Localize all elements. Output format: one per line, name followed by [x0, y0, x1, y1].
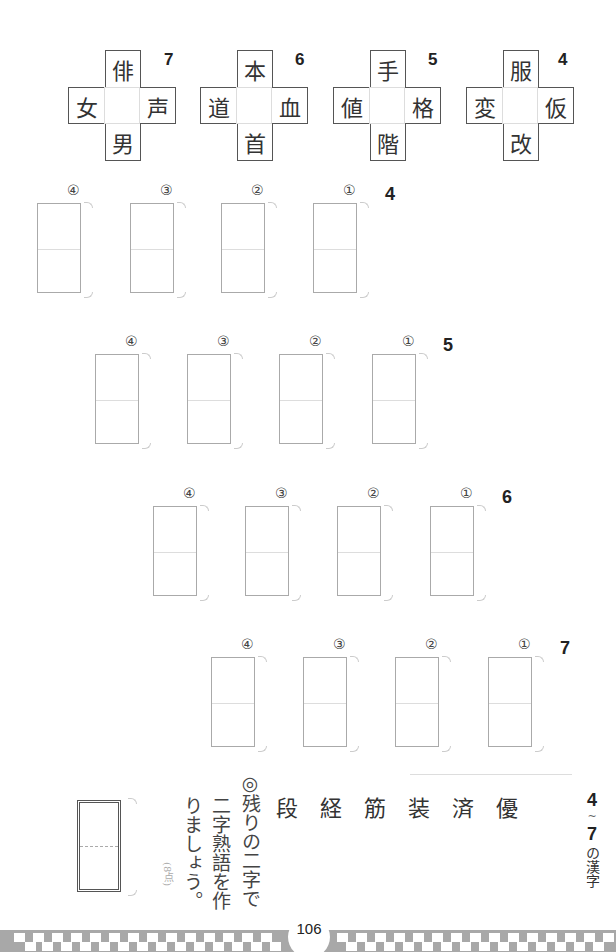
kanji-item: 済 — [451, 790, 475, 822]
answer-box[interactable] — [187, 354, 231, 444]
answer-label: ② — [309, 333, 322, 349]
section-title-text: の漢字 — [582, 846, 602, 888]
answer-box[interactable] — [488, 657, 532, 747]
answer-box[interactable] — [313, 203, 357, 293]
answer-box[interactable] — [153, 506, 197, 596]
puzzle-cell-right: 仮 — [538, 87, 574, 124]
cross-puzzle-5: 手 値 格 階 5 — [333, 46, 443, 168]
puzzle-cell-center-blank[interactable] — [502, 87, 538, 124]
answer-row-4: ④ ③ ② ① 4 — [0, 182, 616, 302]
puzzle-cell-left: 値 — [333, 87, 369, 124]
kanji-item: 筋 — [363, 790, 387, 822]
final-answer-box[interactable] — [77, 800, 121, 892]
answer-box[interactable] — [395, 657, 439, 747]
cross-puzzle-7: 俳 女 声 男 7 — [68, 46, 178, 168]
answer-row-7: ④ ③ ② ① 7 — [0, 636, 616, 756]
instruction-line-2: 二字熟語を作 — [208, 796, 232, 910]
answer-slot-1: ① — [372, 333, 492, 453]
answer-box[interactable] — [130, 203, 174, 293]
puzzle-cell-right: 格 — [405, 87, 441, 124]
answer-box[interactable] — [37, 203, 81, 293]
answer-box[interactable] — [279, 354, 323, 444]
answer-row-5: ④ ③ ② ① 5 — [0, 333, 616, 453]
puzzle-cell-top: 手 — [370, 50, 406, 87]
remaining-kanji-list: 優 済 装 筋 経 段 — [275, 790, 519, 822]
answer-label: ② — [425, 636, 438, 652]
answer-label: ④ — [125, 333, 138, 349]
answer-box[interactable] — [303, 657, 347, 747]
puzzle-cell-center-blank[interactable] — [104, 87, 140, 124]
paren-top — [128, 798, 137, 804]
row-number: 4 — [385, 184, 395, 205]
cross-puzzle-4: 服 変 仮 改 4 — [466, 46, 576, 168]
answer-slot-1: ① — [488, 636, 608, 756]
answer-label: ① — [518, 636, 531, 652]
puzzle-cell-left: 変 — [466, 87, 502, 124]
kanji-item: 優 — [495, 790, 519, 822]
instruction-line-1: ◎残りの二字で — [238, 772, 262, 908]
puzzle-cell-bottom: 男 — [105, 124, 141, 161]
cross-puzzle-6: 本 道 血 首 6 — [200, 46, 310, 168]
puzzle-number: 7 — [164, 50, 173, 70]
answer-box[interactable] — [337, 506, 381, 596]
instruction-line-3: りましょう。 — [180, 796, 204, 910]
kanji-item: 装 — [407, 790, 431, 822]
row-number: 5 — [443, 335, 453, 356]
answer-box[interactable] — [372, 354, 416, 444]
kanji-item: 段 — [275, 790, 299, 822]
answer-label: ① — [343, 182, 356, 198]
row-number: 7 — [560, 638, 570, 659]
puzzle-number: 4 — [558, 50, 567, 70]
answer-row-6: ④ ③ ② ① 6 — [0, 485, 616, 605]
answer-slot-1: ① — [430, 485, 550, 605]
puzzle-cell-top: 本 — [237, 50, 273, 87]
puzzle-cell-bottom: 首 — [237, 124, 273, 161]
answer-label: ③ — [275, 485, 288, 501]
answer-label: ① — [402, 333, 415, 349]
answer-box[interactable] — [221, 203, 265, 293]
puzzle-cell-top: 俳 — [105, 50, 141, 87]
puzzle-cell-top: 服 — [503, 50, 539, 87]
answer-label: ④ — [241, 636, 254, 652]
answer-box[interactable] — [95, 354, 139, 444]
puzzle-cell-right: 血 — [272, 87, 308, 124]
section-title-tilde: ~ — [580, 810, 604, 824]
answer-label: ② — [367, 485, 380, 501]
row-number: 6 — [502, 487, 512, 508]
puzzle-cell-center-blank[interactable] — [369, 87, 405, 124]
answer-label: ④ — [67, 182, 80, 198]
section-title-end: 7 — [580, 824, 604, 844]
section-title: 4 ~ 7 の漢字 — [580, 790, 604, 892]
answer-label: ③ — [217, 333, 230, 349]
answer-label: ③ — [333, 636, 346, 652]
section-title-start: 4 — [580, 790, 604, 810]
paren-bottom — [128, 890, 137, 896]
answer-box[interactable] — [211, 657, 255, 747]
answer-label: ④ — [183, 485, 196, 501]
answer-box[interactable] — [430, 506, 474, 596]
puzzle-cell-right: 声 — [140, 87, 176, 124]
answer-label: ③ — [160, 182, 173, 198]
answer-slot-1: ① — [313, 182, 433, 302]
answer-label: ② — [251, 182, 264, 198]
puzzle-cell-left: 女 — [68, 87, 104, 124]
puzzle-cell-left: 道 — [200, 87, 236, 124]
page-number: 106 — [288, 920, 330, 937]
puzzle-cell-bottom: 改 — [503, 124, 539, 161]
answer-box[interactable] — [245, 506, 289, 596]
section-divider — [410, 774, 572, 775]
puzzle-cell-center-blank[interactable] — [236, 87, 272, 124]
puzzle-cell-bottom: 階 — [370, 124, 406, 161]
puzzle-number: 5 — [428, 50, 437, 70]
points-note: (8点) — [160, 862, 175, 886]
puzzle-number: 6 — [295, 50, 304, 70]
kanji-item: 経 — [319, 790, 343, 822]
answer-label: ① — [460, 485, 473, 501]
